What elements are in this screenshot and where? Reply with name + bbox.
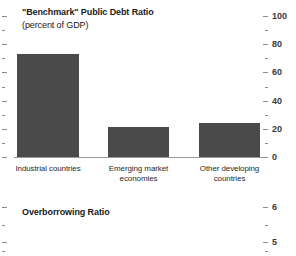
category-label-1-line-1: economies [90,174,187,184]
y-minor-tick-right-70 [265,58,268,59]
y-tick-left-80 [2,44,7,45]
y-minor-tick-left-30 [2,115,5,116]
y-minor-tick-right-over-4.75 [265,251,268,252]
y-minor-tick-right-50 [265,87,268,88]
category-label-2-line-0: Other developing [181,164,278,174]
y-tick-left-20 [2,129,7,130]
y-tick-left-40 [2,101,7,102]
y-minor-tick-left-90 [2,30,5,31]
y-minor-tick-right-30 [265,115,268,116]
bar-emerging-market-economies [108,127,169,157]
y-tick-right-over-6 [263,207,268,208]
y-tick-label-0: 0 [272,153,294,162]
category-label-0-line-0: Industrial countries [0,164,97,174]
category-label-2-line-1: countries [181,174,278,184]
y-tick-right-over-5 [263,242,268,243]
y-tick-label-20: 20 [272,125,294,134]
y-tick-right-20 [263,129,268,130]
y-tick-right-60 [263,72,268,73]
y-tick-left-100 [2,16,7,17]
plot-area-public-debt [14,16,262,157]
category-label-0: Industrial countries [0,164,97,174]
panel-public-debt-ratio: "Benchmark" Public Debt Ratio (percent o… [0,0,296,200]
category-label-2: Other developingcountries [181,164,278,184]
y-tick-label-over-6: 6 [272,203,294,212]
panel-title-overborrowing-ratio: Overborrowing Ratio [22,207,110,218]
y-tick-right-100 [263,16,268,17]
y-minor-tick-right-10 [265,143,268,144]
y-minor-tick-right-90 [265,30,268,31]
y-minor-tick-right-over-5.5 [265,225,268,226]
y-tick-left-over-5 [2,242,7,243]
y-tick-label-100: 100 [272,12,294,21]
figure-root: "Benchmark" Public Debt Ratio (percent o… [0,0,296,256]
y-minor-tick-left-50 [2,87,5,88]
y-minor-tick-left-70 [2,58,5,59]
y-minor-tick-left-10 [2,143,5,144]
category-label-1-line-0: Emerging market [90,164,187,174]
y-tick-right-80 [263,44,268,45]
y-tick-left-60 [2,72,7,73]
y-tick-right-0 [263,157,268,158]
y-tick-label-60: 60 [272,68,294,77]
bar-industrial-countries [17,54,79,157]
y-tick-left-over-6 [2,207,7,208]
baseline-axis [14,157,268,158]
y-minor-tick-left-over-4.75 [2,251,5,252]
y-tick-label-80: 80 [272,40,294,49]
y-tick-left-0 [2,157,7,158]
bar-other-developing-countries [199,123,260,157]
panel-overborrowing-ratio: Overborrowing Ratio 56 [0,200,296,256]
y-tick-right-40 [263,101,268,102]
y-tick-label-40: 40 [272,97,294,106]
category-label-1: Emerging marketeconomies [90,164,187,184]
y-minor-tick-left-over-5.5 [2,225,5,226]
y-tick-label-over-5: 5 [272,238,294,247]
